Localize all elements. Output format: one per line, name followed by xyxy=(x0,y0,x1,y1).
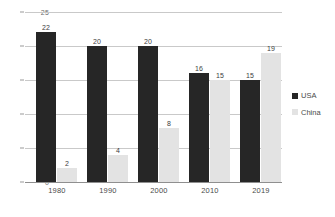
legend: USA China xyxy=(292,92,321,116)
legend-item-usa[interactable]: USA xyxy=(292,92,321,100)
legend-swatch-icon xyxy=(292,109,298,115)
y-tick-mark xyxy=(20,46,24,47)
bar-usa[interactable]: 22 xyxy=(36,32,56,182)
bar-value-label: 20 xyxy=(93,38,101,45)
x-tick-label-1990: 1990 xyxy=(99,186,117,195)
bar-group: 22 2 xyxy=(36,12,77,182)
legend-item-china[interactable]: China xyxy=(292,109,321,117)
bar-value-label: 20 xyxy=(144,38,152,45)
bar-value-label: 15 xyxy=(246,72,254,79)
bar-value-label: 19 xyxy=(267,45,275,52)
y-tick-mark xyxy=(20,182,24,183)
bar-value-label: 16 xyxy=(195,65,203,72)
y-tick-mark xyxy=(20,114,24,115)
bar-value-label: 15 xyxy=(216,72,224,79)
x-tick-label-2010: 2010 xyxy=(201,186,219,195)
y-tick-mark xyxy=(20,80,24,81)
bar-china[interactable]: 15 xyxy=(210,80,230,182)
y-tick-mark xyxy=(20,148,24,149)
bar-china[interactable]: 19 xyxy=(261,53,281,182)
bar-china[interactable]: 4 xyxy=(108,155,128,182)
bar-value-label: 8 xyxy=(167,120,171,127)
bar-usa[interactable]: 16 xyxy=(189,73,209,182)
y-tick-mark xyxy=(20,12,24,13)
x-tick-label-2019: 2019 xyxy=(252,186,270,195)
plot-area: 22 2 20 4 20 8 16 xyxy=(25,12,282,182)
bar-group: 20 8 xyxy=(138,12,179,182)
legend-label: USA xyxy=(301,92,316,100)
bar-china[interactable]: 2 xyxy=(57,168,77,182)
bar-usa[interactable]: 20 xyxy=(138,46,158,182)
bar-chart: 25 20 15 10 5 0 22 2 xyxy=(0,0,335,217)
bar-group: 16 15 xyxy=(189,12,230,182)
bar-usa[interactable]: 15 xyxy=(240,80,260,182)
bar-china[interactable]: 8 xyxy=(159,128,179,182)
bar-value-label: 22 xyxy=(42,24,50,31)
bar-value-label: 4 xyxy=(116,147,120,154)
bar-group: 20 4 xyxy=(87,12,128,182)
bar-usa[interactable]: 20 xyxy=(87,46,107,182)
x-tick-label-1980: 1980 xyxy=(48,186,66,195)
legend-swatch-icon xyxy=(292,93,298,99)
x-tick-label-2000: 2000 xyxy=(150,186,168,195)
gridline-0 xyxy=(25,182,282,183)
bar-value-label: 2 xyxy=(65,160,69,167)
bar-group: 15 19 xyxy=(240,12,281,182)
legend-label: China xyxy=(301,109,321,117)
